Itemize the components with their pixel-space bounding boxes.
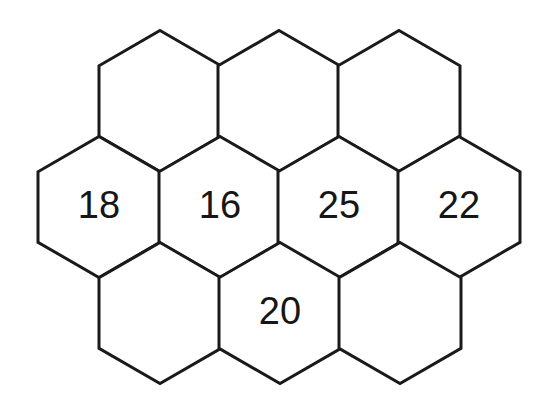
honeycomb-figure: 1816252220 [0,0,551,407]
hexagon-cell-label: 16 [199,184,241,226]
hexagon-cell-label: 25 [318,184,360,226]
hexagon-cell-label: 18 [78,184,120,226]
hexagon-cell-label: 22 [438,184,480,226]
honeycomb-diagram: 1816252220 [0,0,551,407]
hexagon-cell-label: 20 [259,290,301,332]
